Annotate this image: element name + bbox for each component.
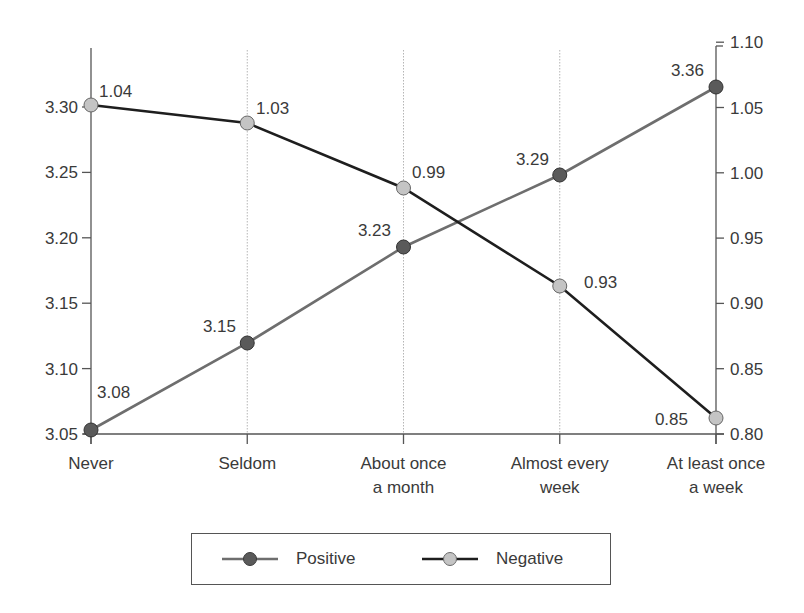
negative-point bbox=[397, 181, 411, 195]
legend-item-negative: Negative bbox=[422, 534, 563, 584]
left-tick-label: 3.20 bbox=[45, 229, 78, 248]
positive-point bbox=[397, 240, 411, 254]
left-tick-label: 3.15 bbox=[45, 294, 78, 313]
category-label: Seldom bbox=[218, 454, 276, 473]
right-tick-label: 0.80 bbox=[730, 425, 763, 444]
negative-value-label: 1.03 bbox=[256, 99, 289, 118]
negative-point bbox=[84, 98, 98, 112]
dual-axis-line-chart: 3.053.103.153.203.253.300.800.850.900.95… bbox=[0, 0, 804, 530]
category-label: Almost every bbox=[511, 454, 610, 473]
category-label: At least once bbox=[667, 454, 765, 473]
positive-series-icon bbox=[222, 549, 278, 569]
positive-value-label: 3.23 bbox=[358, 221, 391, 240]
right-tick-label: 0.95 bbox=[730, 229, 763, 248]
right-tick-label: 0.85 bbox=[730, 360, 763, 379]
negative-value-label: 0.93 bbox=[584, 273, 617, 292]
positive-point bbox=[553, 168, 567, 182]
negative-value-label: 0.99 bbox=[412, 163, 445, 182]
negative-series-icon bbox=[422, 549, 478, 569]
negative-value-label: 0.85 bbox=[655, 410, 688, 429]
left-tick-label: 3.25 bbox=[45, 163, 78, 182]
left-tick-label: 3.10 bbox=[45, 360, 78, 379]
left-tick-label: 3.30 bbox=[45, 98, 78, 117]
category-label: a month bbox=[373, 478, 434, 497]
positive-value-label: 3.08 bbox=[97, 383, 130, 402]
right-tick-label: 1.05 bbox=[730, 99, 763, 118]
chart-legend: Positive Negative bbox=[191, 533, 611, 585]
negative-point bbox=[709, 411, 723, 425]
left-tick-label: 3.05 bbox=[45, 425, 78, 444]
positive-point bbox=[84, 423, 98, 437]
positive-value-label: 3.29 bbox=[516, 150, 549, 169]
category-label: a week bbox=[689, 478, 743, 497]
negative-point bbox=[240, 116, 254, 130]
right-tick-label: 0.90 bbox=[730, 294, 763, 313]
positive-point bbox=[240, 336, 254, 350]
right-tick-label: 1.00 bbox=[730, 164, 763, 183]
category-label: Never bbox=[68, 454, 114, 473]
legend-label-positive: Positive bbox=[296, 549, 356, 569]
legend-item-positive: Positive bbox=[222, 534, 356, 584]
right-tick-label: 1.10 bbox=[730, 33, 763, 52]
negative-value-label: 1.04 bbox=[99, 82, 132, 101]
negative-point bbox=[553, 279, 567, 293]
positive-value-label: 3.36 bbox=[671, 61, 704, 80]
category-label: About once bbox=[360, 454, 446, 473]
positive-point bbox=[709, 80, 723, 94]
legend-label-negative: Negative bbox=[496, 549, 563, 569]
positive-value-label: 3.15 bbox=[203, 317, 236, 336]
category-label: week bbox=[539, 478, 580, 497]
